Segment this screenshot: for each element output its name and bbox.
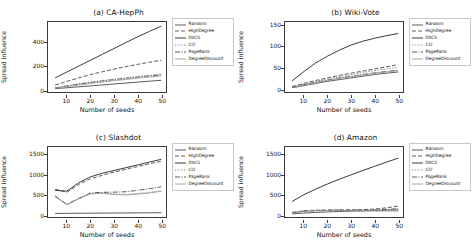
legend-label: DIICS [189, 35, 201, 42]
series-line [55, 187, 161, 205]
legend-item: Random [175, 21, 231, 28]
legend: RandomHighDegreeDIICSCI2PageRankDegreeDi… [172, 143, 234, 191]
y-tick-labels: 050100150 [259, 21, 281, 93]
legend-label: DegreeDiscount [189, 181, 224, 188]
legend-label: DIICS [189, 160, 201, 167]
x-tick-mark [66, 95, 67, 98]
legend-item: DIICS [175, 35, 231, 42]
series-line [55, 76, 161, 88]
legend-item: PageRank [412, 174, 468, 181]
x-axis-label: Number of seeds [47, 231, 167, 239]
y-tick-label: 1500 [22, 151, 44, 157]
legend-swatch [412, 154, 423, 158]
series-line [292, 158, 398, 201]
legend-label: Random [189, 21, 207, 28]
legend: RandomHighDegreeDIICSCI2PageRankDegreeDi… [172, 18, 234, 66]
y-axis-label: Spread influence [236, 21, 246, 93]
y-tick-label: 0 [22, 213, 44, 219]
x-tick-mark [90, 95, 91, 98]
legend-item: Random [412, 146, 468, 153]
legend-swatch [175, 57, 186, 61]
legend-label: CI2 [426, 167, 433, 174]
x-tick-label: 30 [110, 223, 118, 229]
x-tick-mark [138, 220, 139, 223]
legend-item: CI2 [412, 42, 468, 49]
legend-item: CI2 [412, 167, 468, 174]
legend-item: PageRank [175, 174, 231, 181]
x-tick-labels: 1020304050 [47, 95, 167, 104]
legend-label: PageRank [426, 174, 447, 181]
legend-label: PageRank [189, 49, 210, 56]
legend-swatch [175, 148, 186, 152]
legend-swatch [412, 50, 423, 54]
legend-item: CI2 [175, 42, 231, 49]
panel-title: (a) CA-HepPh [0, 8, 237, 17]
panel-title: (b) Wiki-Vote [237, 8, 474, 17]
legend-item: Random [175, 146, 231, 153]
x-tick-label: 10 [299, 98, 307, 104]
x-tick-label: 40 [134, 223, 142, 229]
legend-swatch [412, 175, 423, 179]
legend-swatch [412, 168, 423, 172]
legend-label: HighDegree [426, 28, 452, 35]
x-tick-mark [90, 220, 91, 223]
x-tick-label: 10 [62, 98, 70, 104]
x-tick-label: 50 [158, 98, 166, 104]
plot-area [47, 21, 167, 93]
legend-label: HighDegree [189, 28, 215, 35]
x-tick-mark [375, 220, 376, 223]
x-tick-mark [162, 95, 163, 98]
x-tick-label: 10 [62, 223, 70, 229]
y-axis-label: Spread influence [236, 146, 246, 218]
panel-title: (d) Amazon [237, 133, 474, 142]
legend-label: Random [426, 146, 444, 153]
y-axis-label: Spread influence [0, 21, 9, 93]
legend-label: DIICS [426, 35, 438, 42]
y-tick-label: 0 [259, 213, 281, 219]
y-tick-label: 500 [22, 192, 44, 198]
x-tick-label: 20 [323, 223, 331, 229]
y-tick-label: 150 [259, 22, 281, 28]
legend-label: CI2 [189, 167, 196, 174]
x-tick-label: 50 [158, 223, 166, 229]
y-tick-label: 50 [259, 65, 281, 71]
x-tick-mark [303, 95, 304, 98]
x-tick-mark [327, 220, 328, 223]
legend-swatch [175, 36, 186, 40]
legend-item: CI2 [175, 167, 231, 174]
y-tick-label: 0 [259, 87, 281, 93]
legend-swatch [412, 161, 423, 165]
legend-label: HighDegree [189, 153, 215, 160]
x-tick-mark [327, 95, 328, 98]
x-axis-label: Number of seeds [47, 106, 167, 114]
legend-swatch [175, 29, 186, 33]
x-tick-label: 10 [299, 223, 307, 229]
legend: RandomHighDegreeDIICSCI2PageRankDegreeDi… [409, 18, 471, 66]
panel-title: (c) Slashdot [0, 133, 237, 142]
legend-swatch [412, 182, 423, 186]
legend-item: HighDegree [412, 28, 468, 35]
plot-area [284, 146, 404, 218]
x-tick-labels: 1020304050 [47, 220, 167, 229]
legend-swatch [175, 161, 186, 165]
legend-swatch [175, 154, 186, 158]
legend-label: DIICS [426, 160, 438, 167]
y-tick-labels: 050010001500 [22, 146, 44, 218]
legend-item: HighDegree [175, 28, 231, 35]
x-tick-label: 50 [395, 98, 403, 104]
y-tick-label: 1000 [259, 172, 281, 178]
legend-item: HighDegree [412, 153, 468, 160]
legend-label: DegreeDiscount [426, 181, 461, 188]
legend-label: DegreeDiscount [189, 56, 224, 63]
x-tick-label: 30 [347, 98, 355, 104]
y-tick-label: 400 [22, 39, 44, 45]
x-tick-label: 20 [86, 223, 94, 229]
panel-a: (a) CA-HepPh Spread influence 0200400 10… [0, 0, 237, 125]
legend-label: Random [189, 146, 207, 153]
legend-label: Random [426, 21, 444, 28]
x-tick-label: 40 [371, 98, 379, 104]
legend-item: DegreeDiscount [412, 56, 468, 63]
panel-d: (d) Amazon Spread influence 050010001500… [237, 125, 474, 250]
legend-label: CI2 [189, 42, 196, 49]
legend-label: PageRank [189, 174, 210, 181]
